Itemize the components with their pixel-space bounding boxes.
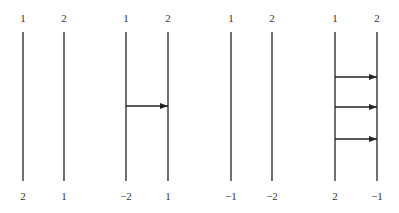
panel-1-line-1-top-label: 1 <box>20 13 26 24</box>
panel-3-line-2-bottom-label: −2 <box>266 191 278 202</box>
panel-1-line-2-top-label: 2 <box>61 13 67 24</box>
panel-2-line-1-top-label: 1 <box>123 13 129 24</box>
panel-3-line-2-top-label: 2 <box>269 13 275 24</box>
panel-4-line-2-top-label: 2 <box>374 13 380 24</box>
panel-3-line-1-top-label: 1 <box>228 13 234 24</box>
panel-3-line-1-bottom-label: −1 <box>225 191 237 202</box>
diagram-canvas <box>0 0 399 213</box>
panel-2-line-2-top-label: 2 <box>165 13 171 24</box>
panel-2-line-2-bottom-label: 1 <box>165 191 171 202</box>
panel-2-line-1-bottom-label: −2 <box>120 191 132 202</box>
panel-4-line-2-bottom-label: −1 <box>371 191 383 202</box>
panel-4-line-1-top-label: 1 <box>332 13 338 24</box>
panel-1-line-2-bottom-label: 1 <box>61 191 67 202</box>
panel-4-line-1-bottom-label: 2 <box>332 191 338 202</box>
panel-1-line-1-bottom-label: 2 <box>20 191 26 202</box>
